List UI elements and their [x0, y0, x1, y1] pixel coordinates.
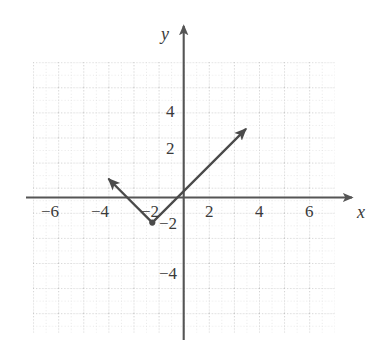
y-tick-label-4: 4 — [166, 103, 175, 120]
y-tick-label-neg2: −2 — [159, 215, 177, 232]
x-tick-label-neg4: −4 — [91, 203, 109, 220]
y-tick-label-2: 2 — [166, 140, 175, 157]
x-tick-label-2: 2 — [205, 203, 214, 220]
x-axis-label: x — [357, 203, 365, 221]
coordinate-plane — [0, 0, 381, 362]
x-tick-label-neg6: −6 — [41, 203, 59, 220]
x-tick-label-6: 6 — [305, 203, 314, 220]
y-tick-label-neg4: −4 — [159, 265, 177, 282]
graph-figure: −6 −4 −2 2 4 6 4 2 −2 −4 x y — [0, 0, 381, 362]
y-axis-label: y — [161, 25, 169, 43]
x-tick-label-4: 4 — [255, 203, 264, 220]
x-tick-label-neg2: −2 — [141, 203, 159, 220]
